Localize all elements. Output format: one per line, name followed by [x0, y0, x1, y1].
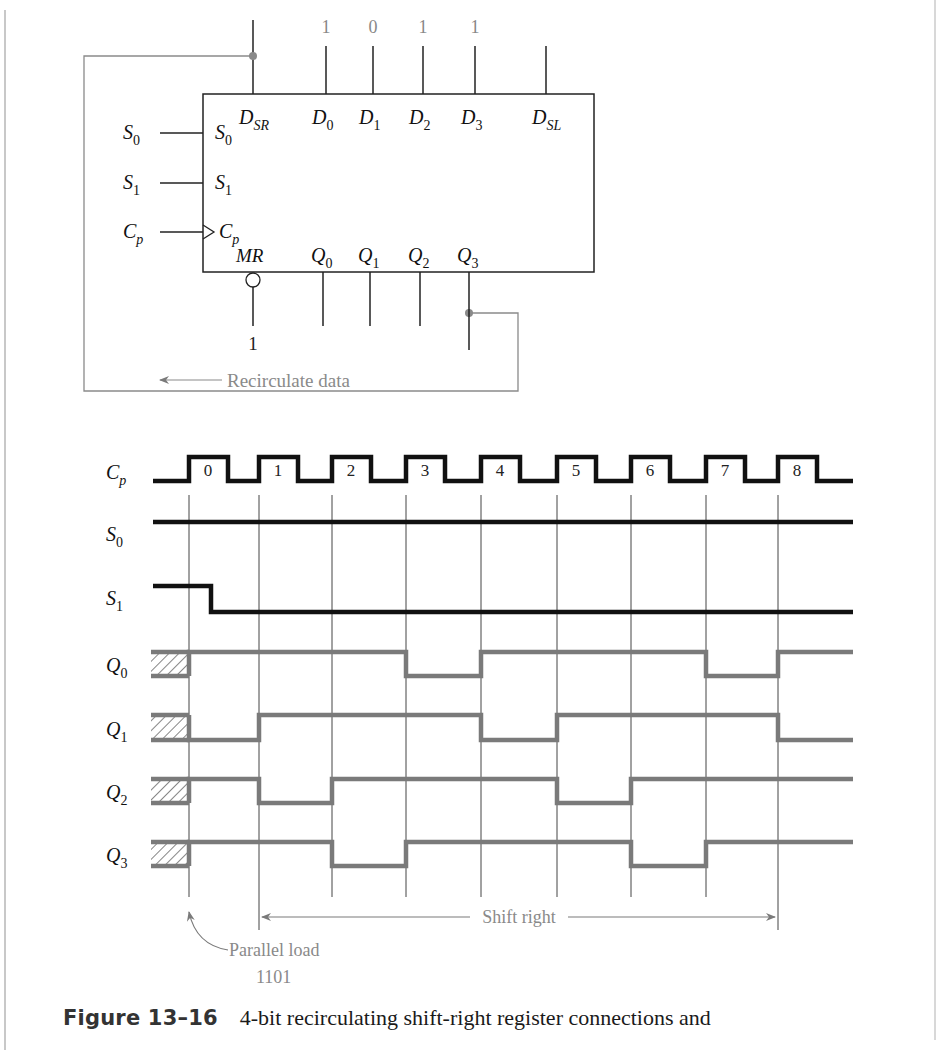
input-value-d2: 1	[419, 17, 428, 37]
pin-label-q3: Q3	[457, 244, 478, 271]
parallel-load-arrow	[189, 912, 228, 950]
pin-label-cp: Cp	[219, 220, 239, 247]
external-label-cp: Cp	[123, 220, 143, 247]
shift-register-schematic: DSRD01D10D21D31DSLRecirculate dataS0S0S1…	[84, 17, 594, 391]
pin-label-mr: MR	[235, 245, 264, 266]
pin-label-s1: S1	[215, 171, 232, 198]
parallel-load-label: Parallel load	[229, 940, 319, 960]
pin-label-d2: D2	[408, 106, 430, 133]
signal-label-q3: Q3	[106, 844, 127, 871]
pin-label-d0: D0	[311, 106, 333, 133]
figure-caption-text: 4-bit recirculating shift-right register…	[240, 1005, 711, 1030]
unknown-state-hatch	[151, 652, 189, 676]
output-waveform-q3	[189, 842, 853, 866]
pin-label-dsr: DSR	[238, 106, 269, 133]
parallel-load-value: 1101	[256, 967, 291, 987]
clock-triangle-icon	[203, 225, 214, 239]
clock-pulse-number: 1	[274, 461, 283, 480]
signal-label-s1: S1	[106, 587, 123, 614]
clock-pulse-number: 2	[347, 461, 356, 480]
clock-pulse-number: 0	[204, 461, 213, 480]
external-label-s0: S0	[123, 121, 140, 148]
shift-right-label: Shift right	[482, 907, 556, 927]
pin-label-d3: D3	[460, 106, 482, 133]
unknown-state-hatch	[151, 715, 189, 740]
clock-pulse-number: 8	[793, 461, 802, 480]
recirculate-wire	[84, 56, 518, 391]
clock-pulse-number: 4	[496, 461, 505, 480]
clock-pulse-number: 3	[421, 461, 430, 480]
input-value-d3: 1	[471, 17, 480, 37]
input-value-d0: 1	[322, 17, 331, 37]
pin-label-dsl: DSL	[531, 106, 561, 133]
pin-label-q2: Q2	[408, 244, 429, 271]
output-waveform-q0	[189, 652, 853, 676]
select-waveform-s1	[153, 586, 853, 612]
mr-value: 1	[248, 333, 258, 354]
pin-label-d1: D1	[358, 106, 380, 133]
signal-label-cp: Cp	[106, 461, 126, 488]
figure-caption: Figure 13–164-bit recirculating shift-ri…	[63, 1005, 711, 1031]
pin-label-q1: Q1	[358, 244, 379, 271]
inversion-bubble-icon	[246, 273, 260, 287]
clock-pulse-number: 5	[572, 461, 581, 480]
pin-label-q0: Q0	[311, 244, 332, 271]
external-label-s1: S1	[123, 171, 140, 198]
unknown-state-hatch	[151, 779, 189, 803]
clock-pulse-number: 6	[646, 461, 655, 480]
figure-number: Figure 13–16	[63, 1006, 218, 1030]
timing-diagram: Cp012345678S0S1Q0Q1Q2Q3Shift rightParall…	[106, 457, 853, 987]
output-waveform-q1	[189, 715, 853, 740]
junction-dot	[249, 52, 257, 60]
signal-label-q1: Q1	[106, 718, 127, 745]
pin-label-s0: S0	[215, 121, 232, 148]
input-value-d1: 0	[369, 17, 378, 37]
signal-label-q2: Q2	[106, 781, 127, 808]
unknown-state-hatch	[151, 842, 189, 866]
signal-label-q0: Q0	[106, 654, 127, 681]
clock-pulse-number: 7	[721, 461, 730, 480]
output-waveform-q2	[189, 779, 853, 803]
recirculate-label: Recirculate data	[227, 370, 350, 391]
signal-label-s0: S0	[106, 523, 123, 550]
